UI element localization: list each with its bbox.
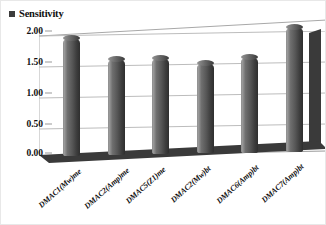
bar-cap xyxy=(241,54,258,60)
bar-column xyxy=(286,27,303,152)
bar-column xyxy=(108,59,125,155)
y-tick-mark xyxy=(45,31,52,32)
x-tick-label: DMAC2(Amp)me xyxy=(83,166,131,211)
y-tick-mark xyxy=(45,93,52,94)
x-tick-label: DMAC7(Amp)bt xyxy=(260,162,306,204)
bar-cap xyxy=(108,56,125,62)
bar-column xyxy=(152,58,169,154)
y-tick-label: 2.00 xyxy=(26,26,43,36)
chart-legend: Sensitivity xyxy=(9,8,63,19)
y-tick-mark xyxy=(45,62,52,63)
x-tick-label: DMAC1(Mw)me xyxy=(37,167,83,210)
y-axis: 2.00 1.50 1.00 0.50 0.00 xyxy=(9,29,55,159)
bar-column xyxy=(63,38,80,156)
bar-cap xyxy=(197,60,214,66)
bar-column xyxy=(197,63,214,153)
y-tick-label: 0.50 xyxy=(26,119,43,129)
y-tick-label: 1.00 xyxy=(26,88,43,98)
bar-series-sensitivity xyxy=(39,31,326,156)
bar-column xyxy=(241,57,258,153)
x-axis-labels: DMAC1(Mw)me DMAC2(Amp)me DMAC5(Z1)me DMA… xyxy=(1,153,326,225)
x-tick-label: DMAC2(Mw)bt xyxy=(169,164,213,204)
sensitivity-bar-chart: Sensitivity xyxy=(0,0,326,225)
y-tick-mark xyxy=(45,124,52,125)
legend-label-sensitivity: Sensitivity xyxy=(19,8,63,19)
y-tick-label: 1.50 xyxy=(26,57,43,67)
x-tick-label: DMAC6(Amp)bt xyxy=(215,163,261,205)
bar-cap xyxy=(152,55,169,61)
bar-cap xyxy=(286,24,303,30)
bar-cap xyxy=(63,35,80,41)
plot-area: 2.00 1.50 1.00 0.50 0.00 DMAC1(Mw)me DMA… xyxy=(1,1,326,225)
square-marker-icon xyxy=(9,11,15,17)
